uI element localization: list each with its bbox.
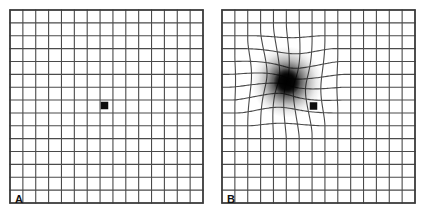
figure-background (0, 0, 427, 218)
panel-a-label: A (15, 193, 23, 205)
central-scotoma-core (273, 68, 300, 95)
amsler-grid-figure: AB (0, 0, 427, 218)
fixation-square (101, 102, 109, 110)
fixation-square (310, 102, 318, 110)
panel-b-label: B (227, 193, 235, 205)
